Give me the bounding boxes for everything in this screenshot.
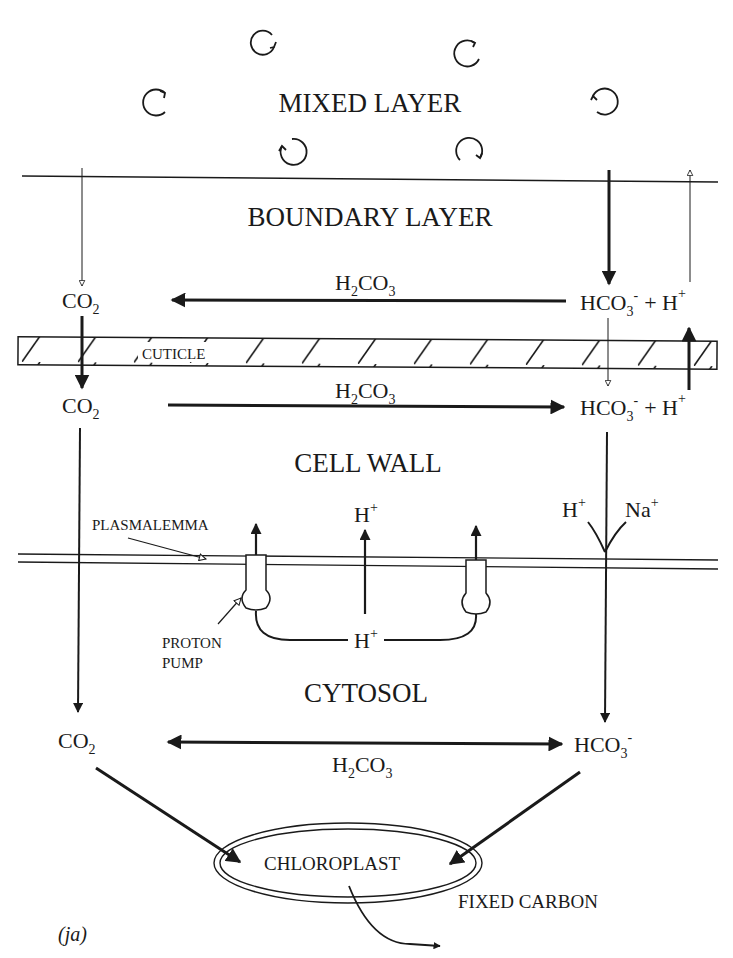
proton-pump-right — [462, 526, 490, 614]
hco3-cytosol-arrow — [605, 432, 607, 722]
boundary-layer-label: BOUNDARY LAYER — [248, 202, 493, 232]
author-annotation: (ja) — [58, 923, 87, 946]
bicarbonate-uptake-diagram: MIXED LAYER BOUNDARY LAYER CO2 H2CO3 HCO… — [0, 0, 733, 958]
symport-sodium: Na+ — [625, 495, 659, 522]
svg-text:HCO3-+ H+: HCO3-+ H+ — [580, 286, 686, 319]
eddy-icon — [456, 138, 482, 160]
proton-pump-left — [242, 524, 270, 610]
cytosolic-proton-label: H+ — [354, 626, 378, 653]
cuticle-label: CUTICLE — [142, 346, 205, 362]
eddy-icon — [591, 89, 618, 115]
plasmalemma-label: PLASMALEMMA — [92, 517, 209, 533]
equilibrium-arrow-cytosol — [168, 742, 562, 744]
h2co3-label-wall: H2CO3 — [335, 378, 395, 407]
co2-cytosol: CO2 — [58, 728, 96, 757]
mixed-layer-region: MIXED LAYER — [143, 31, 618, 165]
mixed-boundary-divider — [22, 176, 718, 182]
symport-proton: H+ — [562, 495, 586, 522]
h2co3-label-boundary: H2CO3 — [335, 270, 395, 299]
cell-wall-label: CELL WALL — [294, 448, 442, 478]
chloroplast-label: CHLOROPLAST — [264, 853, 401, 874]
hco3-cytosol: HCO3- — [574, 730, 632, 761]
extruded-proton-label: H+ — [354, 500, 378, 527]
plasmalemma-membrane — [18, 554, 718, 569]
co2-wall: CO2 — [62, 393, 100, 422]
cuticle-layer: CUTICLE — [18, 337, 717, 369]
fixed-carbon-label: FIXED CARBON — [458, 891, 598, 912]
eddy-icon — [251, 31, 276, 55]
hco3-plus-h-boundary: HCO3-+ H+ — [580, 286, 686, 319]
dehydration-arrow-boundary — [172, 300, 566, 301]
hco3-to-chloroplast-arrow — [450, 772, 580, 864]
svg-text:CO2: CO2 — [62, 288, 100, 317]
proton-pump-pointer — [218, 598, 241, 624]
proton-pump-label-2: PUMP — [162, 655, 203, 671]
cytosol-label: CYTOSOL — [304, 678, 428, 708]
mixed-layer-label: MIXED LAYER — [279, 88, 462, 118]
eddy-icon — [279, 139, 307, 165]
co2-boundary: CO2 — [62, 288, 100, 317]
hco3-plus-h-wall: HCO3-+ H+ — [580, 391, 686, 424]
co2-to-chloroplast-arrow — [96, 768, 240, 862]
proton-pump-label-1: PROTON — [162, 635, 222, 651]
h2co3-label-cytosol: H2CO3 — [332, 752, 392, 781]
eddy-icon — [454, 40, 479, 66]
co2-cytosol-arrow — [78, 428, 80, 712]
eddy-icon — [143, 90, 165, 116]
hydration-arrow-wall — [168, 405, 564, 407]
